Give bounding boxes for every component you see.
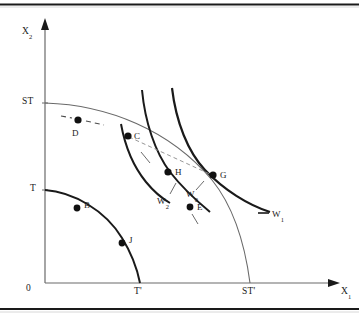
x-tick-label-stprime: ST' [242, 287, 255, 297]
curve-label-w0: W0 [186, 190, 198, 199]
y-axis-label: X2 [22, 27, 33, 37]
point-marker-g [209, 171, 216, 178]
figure-canvas: X2 X1 0 ST T T' ST' D C B J H G E W2 W0 … [0, 0, 359, 320]
point-label-c: C [134, 132, 140, 141]
annotation-arrows [141, 152, 269, 224]
curve-label-w1: W1 [272, 210, 284, 219]
point-label-b: B [84, 201, 90, 210]
x-tick-label-tprime: T' [134, 287, 142, 297]
arrow-w2-pointer [170, 183, 176, 194]
arrow-w0-pointer [196, 181, 204, 190]
point-label-d: D [72, 129, 79, 138]
point-label-e: E [197, 203, 203, 212]
point-label-h: H [175, 168, 182, 177]
arrow-e-pointer [192, 214, 198, 224]
arrow-c-inward [141, 152, 150, 163]
diagram-svg [0, 0, 359, 320]
x-axis-label: X1 [341, 287, 352, 297]
y-tick-label-st: ST [22, 97, 34, 107]
point-marker-d [74, 116, 81, 123]
y-axis-arrow-icon [41, 18, 49, 30]
point-label-j: J [129, 236, 133, 245]
point-marker-h [164, 168, 171, 175]
point-marker-b [74, 205, 81, 212]
axis-group [41, 18, 340, 287]
point-marker-j [119, 240, 126, 247]
y-tick-label-t: T [30, 184, 36, 194]
frontier-t-curve [45, 190, 140, 283]
tangent-line-d [61, 116, 104, 125]
origin-label: 0 [26, 284, 31, 294]
x-axis-arrow-icon [328, 279, 340, 287]
point-marker-e [187, 204, 194, 211]
point-marker-c [124, 132, 131, 139]
point-label-g: G [220, 171, 227, 180]
curve-label-w2: W2 [157, 197, 169, 206]
